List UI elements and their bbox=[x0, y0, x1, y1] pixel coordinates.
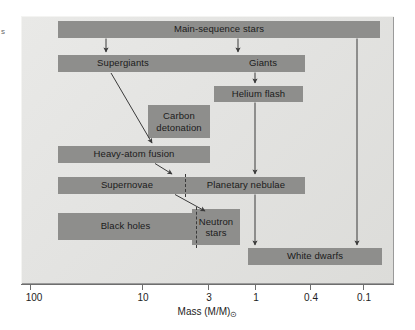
axis-tick-label: 100 bbox=[26, 292, 43, 303]
axis-tick bbox=[310, 284, 311, 290]
axis-tick bbox=[142, 284, 143, 290]
arrow-supernovae-to-neutron-stars bbox=[175, 195, 205, 212]
axis-tick-label: 3 bbox=[206, 292, 212, 303]
axis-tick-label: 0.4 bbox=[304, 292, 318, 303]
stellar-evolution-figure: s Main-sequence stars Supergiants Giants… bbox=[0, 0, 415, 330]
arrow-supergiants-to-heavy-atom-fusion bbox=[111, 73, 152, 143]
axis-title-text: Mass (M/M) bbox=[178, 306, 231, 317]
axis-tick-label: 1 bbox=[253, 292, 259, 303]
axis-title: Mass (M/M)⊙ bbox=[0, 306, 415, 319]
axis-tick bbox=[363, 284, 364, 290]
axis-tick-label: 10 bbox=[137, 292, 148, 303]
axis-tick-label: 0.1 bbox=[357, 292, 371, 303]
axis-tick bbox=[255, 284, 256, 290]
axis-tick bbox=[208, 284, 209, 290]
axis-tick bbox=[30, 284, 31, 290]
solar-mass-symbol: ⊙ bbox=[230, 310, 237, 319]
flow-arrows bbox=[0, 0, 415, 330]
arrow-heavy-atom-fusion-to-supernovae bbox=[155, 164, 172, 175]
